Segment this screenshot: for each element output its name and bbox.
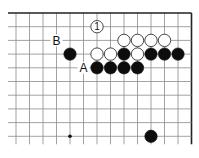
white-stone — [91, 48, 103, 60]
black-stone — [118, 62, 130, 74]
star-points — [68, 135, 72, 139]
white-stone — [104, 48, 116, 60]
white-stone — [158, 34, 170, 46]
black-stone — [172, 48, 184, 60]
white-stone — [118, 34, 130, 46]
black-stone — [145, 48, 157, 60]
go-board-diagram: BA 1 — [0, 0, 199, 158]
white-stone — [131, 34, 143, 46]
black-stone — [158, 48, 170, 60]
black-stone — [64, 48, 76, 60]
move-number: 1 — [94, 21, 100, 32]
point-label-b: B — [52, 34, 60, 48]
black-stone — [131, 62, 143, 74]
black-stone — [104, 62, 116, 74]
black-stone — [91, 62, 103, 74]
black-stone — [118, 48, 130, 60]
white-stone — [145, 34, 157, 46]
point-label-a: A — [79, 61, 87, 75]
star-point — [68, 135, 72, 139]
black-stone — [145, 130, 157, 142]
white-stone — [131, 48, 143, 60]
